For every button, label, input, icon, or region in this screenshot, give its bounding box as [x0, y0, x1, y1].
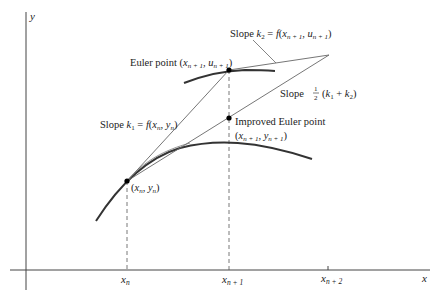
tick-label-xn2: xn + 2 — [320, 272, 342, 286]
improved-point-coords: (xn + 1, yn + 1) — [235, 130, 288, 143]
euler-point-label: Euler point (xn + 1, un + 1) — [130, 57, 233, 70]
svg-text:(k1 + k2): (k1 + k2) — [322, 88, 357, 101]
slope-avg-label: Slope 1 2 (k1 + k2) — [280, 85, 357, 102]
svg-text:1: 1 — [314, 85, 318, 93]
y-axis-label: y — [29, 10, 35, 22]
slope-k1-label: Slope k1 = f(xn, yn) — [100, 119, 178, 132]
x-axis-label: x — [421, 272, 427, 284]
improved-euler-diagram: y x xn xn + 1 xn + 2 (xn, yn) Euler poin… — [0, 0, 440, 294]
start-point-label: (xn, yn) — [131, 182, 160, 195]
point-improved — [226, 115, 231, 120]
svg-text:2: 2 — [314, 94, 318, 102]
tick-label-xn1: xn + 1 — [221, 273, 243, 287]
k2-leader — [253, 40, 276, 63]
slope-k2-line — [229, 55, 329, 70]
point-start — [124, 178, 129, 183]
svg-text:Slope: Slope — [280, 88, 304, 99]
slope-k2-label: Slope k2 = f(xn + 1, un + 1) — [230, 28, 332, 41]
axes — [10, 12, 430, 290]
improved-point-title: Improved Euler point — [235, 116, 325, 127]
tick-label-xn: xn — [120, 273, 130, 287]
